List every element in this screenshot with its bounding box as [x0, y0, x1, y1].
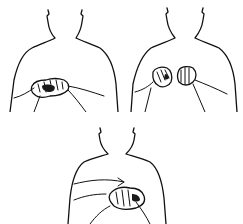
figure-top-right — [121, 0, 243, 112]
gesture-illustration — [0, 0, 243, 224]
figure-bottom-center — [60, 110, 182, 224]
motion-arrow — [74, 180, 124, 184]
figure-top-left — [0, 0, 122, 112]
